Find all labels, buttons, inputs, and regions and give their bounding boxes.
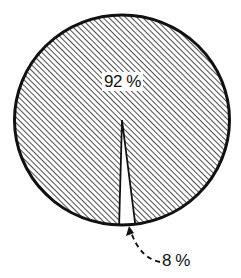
label-major-slice: 92 % (102, 72, 143, 91)
label-minor-slice: 8 % (162, 252, 190, 269)
pie-chart (0, 0, 241, 278)
annotation-arrow-line (131, 232, 160, 262)
